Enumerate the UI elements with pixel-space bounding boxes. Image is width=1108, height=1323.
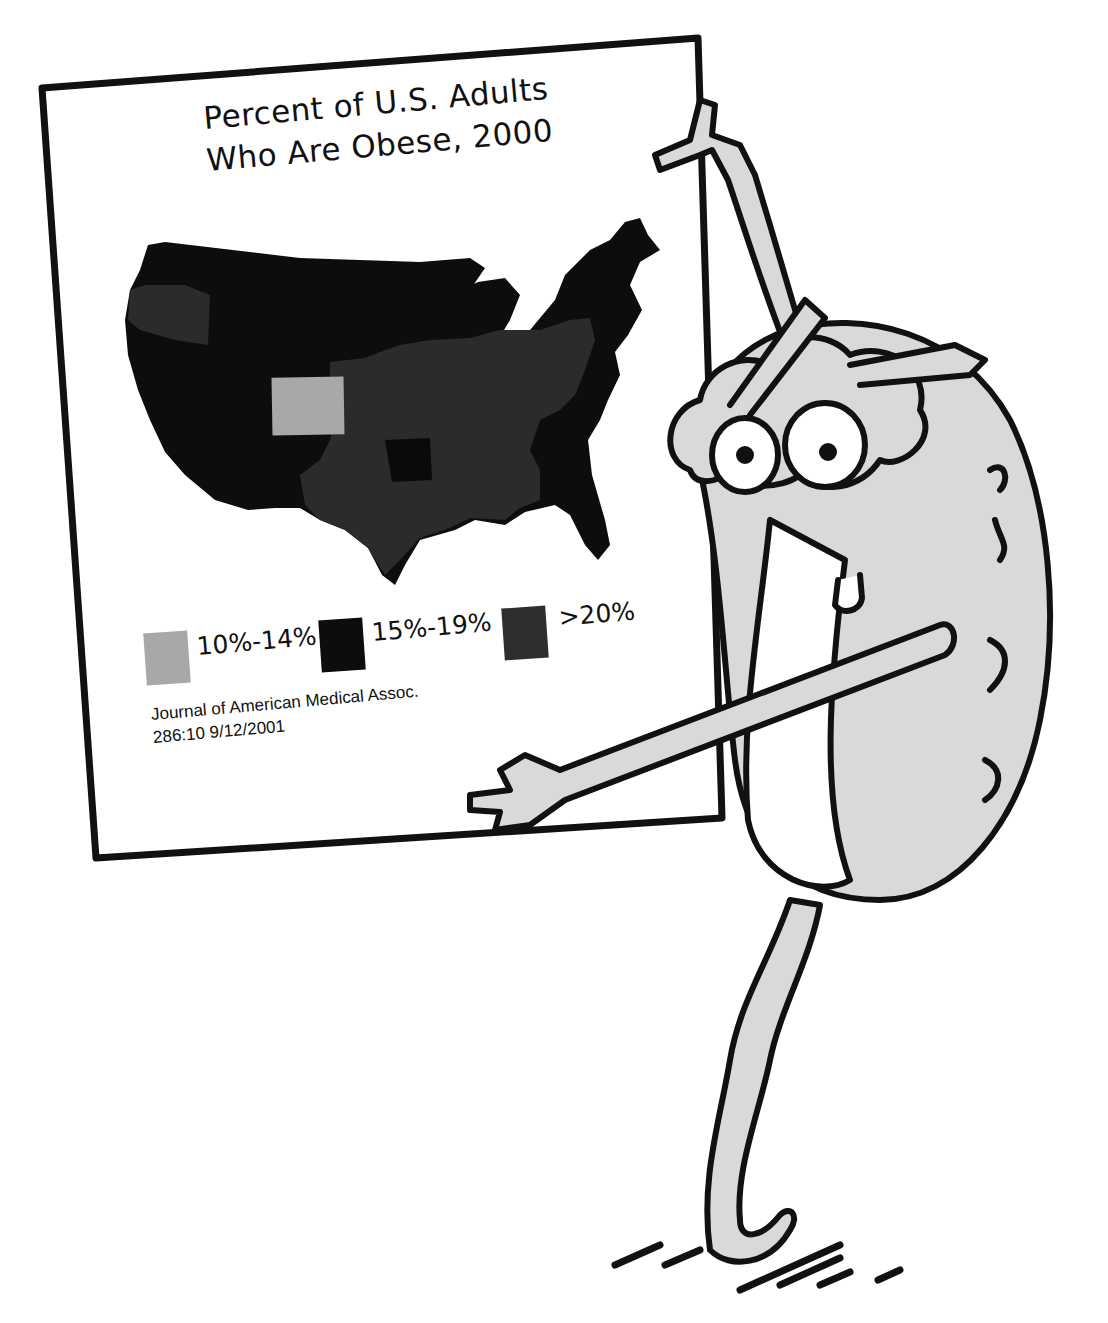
illustration: Percent of U.S. Adults Who Are Obese, 20… — [0, 0, 1108, 1323]
illustration-artwork — [0, 0, 1108, 1323]
